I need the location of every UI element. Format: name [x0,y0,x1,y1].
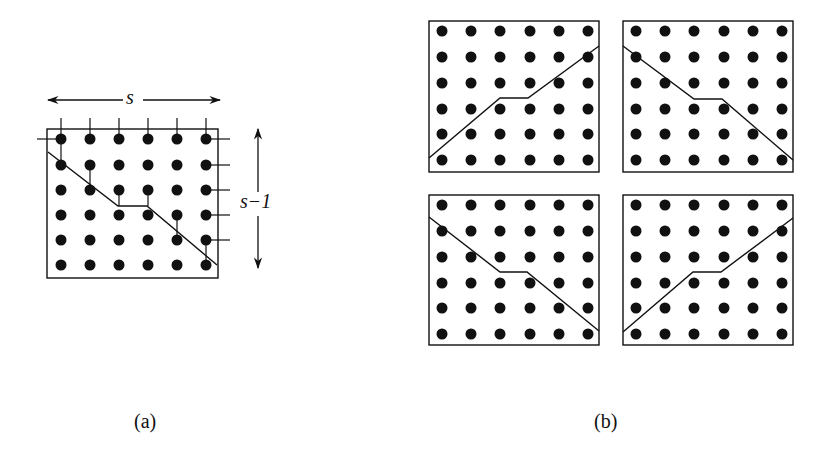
grid-dot [660,329,671,340]
grid-dot [525,200,536,211]
grid-dot [114,210,125,221]
grid-dot [495,129,506,140]
grid-dot [631,252,642,263]
grid-dot [631,155,642,166]
grid-dot [172,160,183,171]
grid-dot [748,78,759,89]
grid-dot [525,226,536,237]
grid-dot [719,104,730,115]
grid-dot [85,134,96,145]
grid-dot [554,303,565,314]
grid-dot [466,226,477,237]
grid-dot [689,104,700,115]
grid-dot [85,185,96,196]
grid-dot [56,160,67,171]
grid-dot [495,303,506,314]
grid-dot [748,104,759,115]
grid-dot [114,235,125,246]
grid-dot [583,155,594,166]
cut-path-line [623,46,793,160]
grid-dot [172,235,183,246]
grid-dot [201,185,212,196]
grid-dot [495,52,506,63]
grid-dot [689,26,700,37]
grid-dot [777,226,788,237]
grid-dot [56,210,67,221]
grid-dot [437,329,448,340]
grid-dot [56,134,67,145]
grid-dot [660,52,671,63]
grid-dot [777,104,788,115]
grid-dot [748,26,759,37]
grid-dot [631,329,642,340]
grid-dot [437,78,448,89]
grid-dot [495,78,506,89]
grid-dot [525,26,536,37]
grid-dot [143,210,154,221]
grid-dot [660,303,671,314]
grid-dot [437,26,448,37]
grid-dot [719,303,730,314]
panel-a-grid [37,118,230,278]
grid-dot [525,252,536,263]
grid-dot [525,155,536,166]
grid-dot [201,235,212,246]
grid-dot [719,278,730,289]
grid-dot [631,226,642,237]
grid-dot [660,226,671,237]
grid-dot [554,329,565,340]
grid-dot [660,104,671,115]
grid-dot [554,52,565,63]
grid-dot [172,185,183,196]
grid-dot [583,329,594,340]
grid-dot [660,278,671,289]
grid-dot [85,260,96,271]
grid-dot [437,278,448,289]
grid-dot [495,252,506,263]
grid-dot [525,129,536,140]
grid-dot [466,104,477,115]
grid-dot [201,160,212,171]
grid-dot [660,252,671,263]
height-label-text: s−1 [240,190,271,212]
grid-dot [172,134,183,145]
grid-dot [437,303,448,314]
grid-dot [631,129,642,140]
cut-path-line [623,218,793,332]
grid-dot [631,26,642,37]
box-outline [429,21,599,172]
cut-path-line [429,46,599,158]
grid-dot [777,252,788,263]
grid-dot [689,155,700,166]
grid-dot [114,185,125,196]
grid-dot [777,200,788,211]
panel-b-grids [429,21,793,345]
cut-path-line [429,217,599,331]
grid-dot [554,226,565,237]
grid-dot [748,155,759,166]
cut-path-line [48,152,217,265]
grid-dot [631,200,642,211]
panel-b-box-2 [623,21,793,172]
grid-dot [777,129,788,140]
grid-dot [466,26,477,37]
grid-dot [143,185,154,196]
grid-dot [143,235,154,246]
grid-dot [525,329,536,340]
grid-dot [525,278,536,289]
grid-dot [495,26,506,37]
grid-dot [583,78,594,89]
grid-dot [719,155,730,166]
grid-dot [466,129,477,140]
grid-dot [85,160,96,171]
grid-dot [719,26,730,37]
grid-dot [495,226,506,237]
grid-dot [748,52,759,63]
grid-dot [56,260,67,271]
grid-dot [583,252,594,263]
grid-dot [143,160,154,171]
grid-dot [689,200,700,211]
grid-dot [777,329,788,340]
grid-dot [748,226,759,237]
grid-dot [554,26,565,37]
